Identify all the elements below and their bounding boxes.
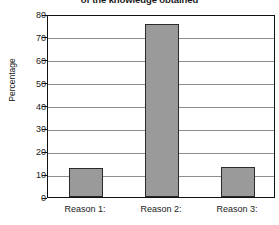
x-tick-label: Reason 3: — [216, 204, 257, 214]
y-tick-label: 80 — [6, 10, 46, 20]
x-tick-label: Reason 2: — [140, 204, 181, 214]
y-tick-label: 0 — [6, 193, 46, 203]
y-tick-label: 30 — [6, 124, 46, 134]
x-tick-label: Reason 1: — [64, 204, 105, 214]
y-tick-label: 40 — [6, 102, 46, 112]
bar — [69, 168, 104, 197]
chart-title: of the knowledge obtained — [0, 0, 279, 5]
plot-area — [47, 15, 275, 198]
y-tick-label: 50 — [6, 79, 46, 89]
y-tick-label: 70 — [6, 33, 46, 43]
y-tick-label: 10 — [6, 170, 46, 180]
bar — [221, 167, 256, 197]
bar-chart: of the knowledge obtained Percentage 010… — [0, 0, 279, 225]
y-tick-label: 20 — [6, 147, 46, 157]
bar — [145, 24, 180, 197]
y-tick-label: 60 — [6, 56, 46, 66]
